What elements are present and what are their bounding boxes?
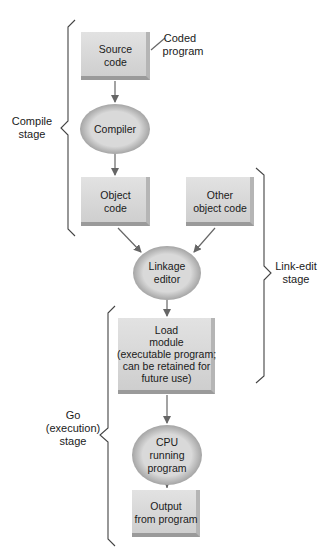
compile-stage-label: Compile stage — [12, 115, 52, 140]
go-stage-line2: (execution) — [46, 422, 100, 434]
output-label-line2: from program — [134, 513, 197, 525]
compile-link-go-diagram: Source code Object code Other object cod… — [0, 0, 326, 557]
node-other-object-code: Other object code — [186, 177, 254, 226]
edge-other-to-linkage — [194, 228, 215, 252]
node-load-module: Load module (executable program; can be … — [117, 318, 216, 394]
node-source-code: Source code — [81, 32, 150, 80]
compiler-label: Compiler — [94, 123, 137, 135]
load-module-label-line3: (executable program; — [117, 348, 216, 360]
coded-program-line2: program — [163, 45, 204, 57]
go-stage-brace — [100, 306, 115, 546]
node-compiler: Compiler — [80, 104, 150, 154]
node-cpu: CPU running program — [132, 425, 202, 485]
linkage-editor-label-line1: Linkage — [149, 260, 186, 272]
go-stage-label: Go (execution) stage — [46, 409, 100, 447]
output-label-line1: Output — [150, 500, 182, 512]
link-edit-stage-line2: stage — [283, 273, 310, 285]
source-code-label-line2: code — [104, 56, 127, 68]
link-edit-stage-line1: Link-edit — [275, 260, 317, 272]
object-code-label-line1: Object — [100, 189, 130, 201]
coded-program-annotation: Coded program — [163, 32, 204, 57]
node-output: Output from program — [132, 490, 200, 537]
link-edit-stage-brace — [256, 168, 271, 383]
other-object-code-label-line1: Other — [207, 189, 234, 201]
cpu-label-line2: running — [149, 449, 184, 461]
cpu-label-line1: CPU — [156, 436, 178, 448]
load-module-label-line4: can be retained for — [123, 360, 211, 372]
compile-stage-line1: Compile — [12, 115, 52, 127]
object-code-label-line2: code — [104, 202, 127, 214]
node-linkage-editor: Linkage editor — [133, 246, 201, 300]
load-module-label-line1: Load — [155, 324, 179, 336]
go-stage-line3: stage — [60, 435, 87, 447]
link-edit-stage-label: Link-edit stage — [275, 260, 317, 285]
linkage-editor-label-line2: editor — [154, 273, 181, 285]
go-stage-line1: Go — [66, 409, 81, 421]
compile-stage-brace — [61, 20, 75, 236]
compile-stage-line2: stage — [19, 128, 46, 140]
node-object-code: Object code — [81, 177, 150, 226]
cpu-label-line3: program — [147, 462, 186, 474]
other-object-code-label-line2: object code — [193, 202, 247, 214]
load-module-label-line5: future use) — [141, 372, 191, 384]
load-module-label-line2: module — [149, 336, 184, 348]
edge-object-to-linkage — [118, 228, 141, 252]
source-code-label-line1: Source — [99, 43, 132, 55]
coded-program-line1: Coded — [164, 32, 196, 44]
